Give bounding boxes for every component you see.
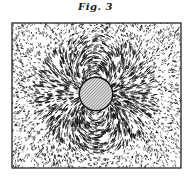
iron-filings-figure [0,0,191,180]
magnet-disc [80,78,112,110]
